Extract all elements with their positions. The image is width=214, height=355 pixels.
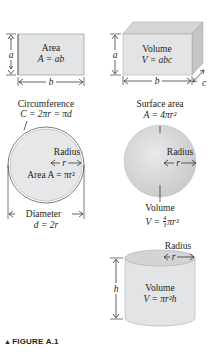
rectangle-side-b: b (46, 77, 56, 87)
circle-radius-label: Radius (50, 147, 84, 157)
triangle-marker-icon: ▲ (4, 338, 11, 345)
cylinder-radius-symbol: r (170, 252, 177, 262)
box-formula: V = abc (134, 55, 180, 65)
sphere-surface-label: Surface area (126, 99, 194, 109)
circumference-formula: C = 2πr = πd (10, 109, 82, 119)
sphere-radius-label: Radius (162, 147, 198, 157)
rectangle-side-a: a (7, 50, 15, 60)
fraction: 4 3 (163, 215, 166, 228)
box-side-a: a (111, 50, 119, 60)
sphere-surface-formula: A = 4πr² (126, 110, 194, 120)
diameter-label: Diameter (15, 209, 72, 219)
rectangle-title: Area (34, 43, 68, 53)
diameter-formula: d = 2r (20, 220, 72, 230)
circle-radius-symbol: r (60, 158, 68, 168)
cylinder-formula: V = πr²h (130, 294, 190, 304)
circumference-label: Circumference (10, 99, 82, 109)
box-side-b: b (152, 76, 162, 86)
cylinder-height-symbol: h (112, 284, 120, 294)
circle-area-formula: Area A = πr² (18, 170, 84, 180)
box-side-c: c (200, 78, 208, 88)
cylinder-title: Volume (136, 283, 184, 293)
box-title: Volume (136, 44, 178, 54)
cylinder-radius-label: Radius (160, 241, 196, 251)
figure-caption: ▲FIGURE A.1 (4, 337, 59, 346)
rectangle-formula: A = ab (28, 54, 74, 64)
sphere-volume-formula: V = 4 3 πr³ (132, 215, 192, 228)
sphere-volume-label: Volume (136, 203, 184, 213)
sphere-shape (124, 125, 196, 202)
sphere-radius-symbol: r (174, 158, 182, 168)
